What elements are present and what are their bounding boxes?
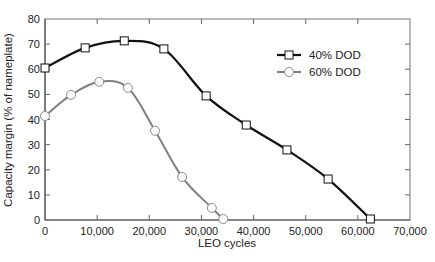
y-tick-label: 70 <box>28 38 40 50</box>
y-tick-label: 30 <box>28 139 40 151</box>
series-line <box>45 81 223 219</box>
square-marker-icon <box>41 64 49 72</box>
series-40-dod <box>41 37 374 223</box>
square-marker-icon <box>160 45 168 53</box>
circle-marker-icon <box>41 111 50 120</box>
square-marker-icon <box>120 37 128 45</box>
circle-marker-icon <box>207 203 216 212</box>
circle-marker-icon <box>151 126 160 135</box>
series-layer <box>41 37 375 224</box>
y-tick-label: 80 <box>28 13 40 25</box>
circle-marker-icon <box>178 173 187 182</box>
series-60-dod <box>41 77 228 223</box>
y-axis-title: Capacity margin (% of nameplate) <box>2 33 14 207</box>
square-marker-icon <box>81 44 89 52</box>
x-tick-label: 20,000 <box>132 225 166 237</box>
y-tick-label: 40 <box>28 114 40 126</box>
x-tick-label: 70,000 <box>393 225 427 237</box>
y-tick-label: 0 <box>34 214 40 226</box>
y-tick-label: 60 <box>28 63 40 75</box>
x-axis-title: LEO cycles <box>198 237 256 249</box>
circle-marker-icon <box>285 68 294 77</box>
x-tick-label: 0 <box>42 225 48 237</box>
square-marker-icon <box>366 215 374 223</box>
x-tick-label: 50,000 <box>289 225 323 237</box>
square-marker-icon <box>324 175 332 183</box>
square-marker-icon <box>283 146 291 154</box>
x-tick-label: 40,000 <box>237 225 271 237</box>
legend-label: 60% DOD <box>309 66 361 78</box>
y-tick-label: 50 <box>28 88 40 100</box>
legend: 40% DOD60% DOD <box>277 49 361 78</box>
legend-item: 60% DOD <box>277 66 361 78</box>
legend-label: 40% DOD <box>309 49 361 61</box>
y-tick-labels: 01020304050607080 <box>28 13 40 226</box>
chart: 010,00020,00030,00040,00050,00060,00070,… <box>0 0 435 262</box>
circle-marker-icon <box>219 214 228 223</box>
square-marker-icon <box>242 121 250 129</box>
x-tick-label: 10,000 <box>80 225 114 237</box>
y-tick-label: 10 <box>28 189 40 201</box>
x-tick-label: 30,000 <box>185 225 219 237</box>
square-marker-icon <box>285 51 293 59</box>
y-tick-label: 20 <box>28 164 40 176</box>
circle-marker-icon <box>123 83 132 92</box>
square-marker-icon <box>202 92 210 100</box>
legend-item: 40% DOD <box>277 49 361 61</box>
circle-marker-icon <box>95 77 104 86</box>
circle-marker-icon <box>67 90 76 99</box>
x-tick-label: 60,000 <box>341 225 375 237</box>
x-tick-labels: 010,00020,00030,00040,00050,00060,00070,… <box>42 225 427 237</box>
